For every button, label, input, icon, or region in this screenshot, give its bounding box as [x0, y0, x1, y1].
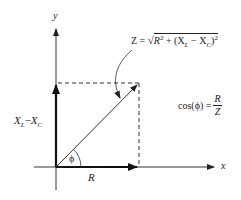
phi-angle-label: ϕ — [69, 154, 74, 164]
cos-phi-formula: cos(ϕ) = R Z — [178, 94, 222, 117]
y-axis-label: y — [53, 11, 57, 21]
r-label: R — [88, 172, 95, 183]
phi-angle-arc — [74, 149, 82, 167]
z-formula-pointer — [116, 50, 132, 98]
z-formula: Z = √R2 + (XL − XC)2 — [131, 35, 218, 46]
reactance-label: XL−XC — [14, 115, 42, 126]
x-axis-label: x — [221, 161, 225, 171]
